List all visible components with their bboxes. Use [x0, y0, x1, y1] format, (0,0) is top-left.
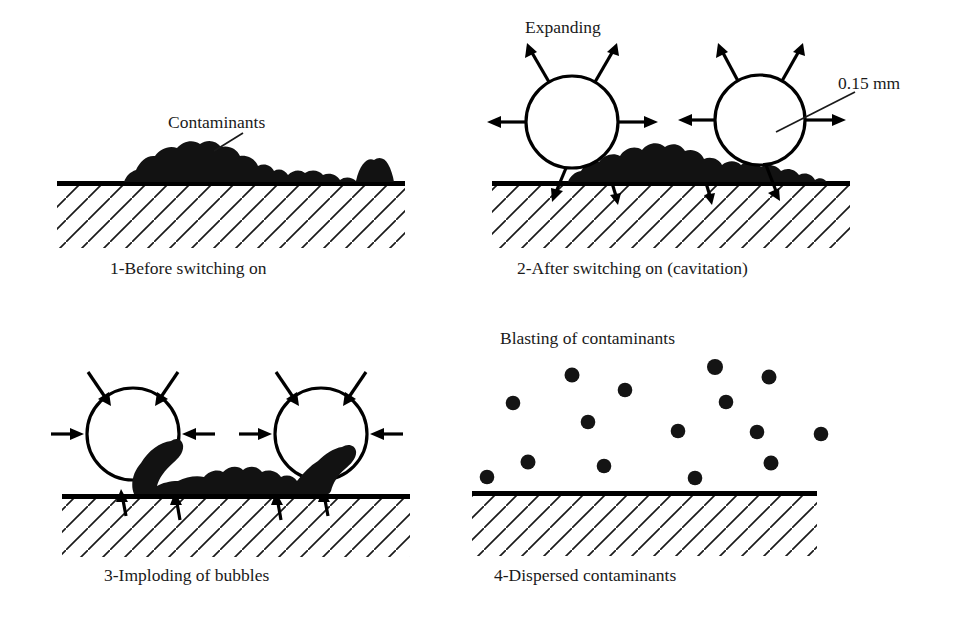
bubble-size-label: 0.15 mm — [838, 73, 901, 93]
particle — [597, 459, 612, 474]
panel-3-caption: 3-Imploding of bubbles — [104, 565, 269, 585]
substrate-hatching — [492, 186, 850, 248]
substrate-hatching — [62, 499, 410, 557]
particle — [618, 383, 633, 398]
substrate-hatching — [57, 186, 405, 248]
cavitation-bubble — [715, 75, 805, 165]
blasting-label: Blasting of contaminants — [500, 328, 675, 348]
contaminants-label: Contaminants — [168, 112, 265, 132]
particle — [565, 368, 580, 383]
cavitation-bubble — [526, 76, 618, 168]
panel-3-substrate — [62, 497, 410, 558]
particle — [719, 395, 734, 410]
particle — [750, 425, 765, 440]
particle — [521, 455, 536, 470]
substrate-hatching — [472, 496, 817, 556]
particle — [688, 471, 703, 486]
particle — [814, 427, 829, 442]
panel-4-substrate — [472, 494, 817, 557]
particle — [762, 370, 777, 385]
particle — [764, 456, 779, 471]
panel-2-caption: 2-After switching on (cavitation) — [517, 258, 748, 278]
cavitation-diagram: Contaminants 1-Before switching on — [0, 0, 966, 620]
particle — [671, 424, 686, 439]
panel-4-caption: 4-Dispersed contaminants — [494, 565, 676, 585]
expanding-label: Expanding — [525, 17, 601, 37]
particle — [581, 415, 596, 430]
figure-root: Contaminants 1-Before switching on — [0, 0, 966, 620]
panel-1-substrate — [57, 184, 405, 249]
panel-1-caption: 1-Before switching on — [110, 258, 267, 278]
particle — [506, 396, 521, 411]
particle — [707, 359, 723, 375]
panel-2-substrate — [492, 184, 850, 249]
particle — [480, 470, 495, 485]
